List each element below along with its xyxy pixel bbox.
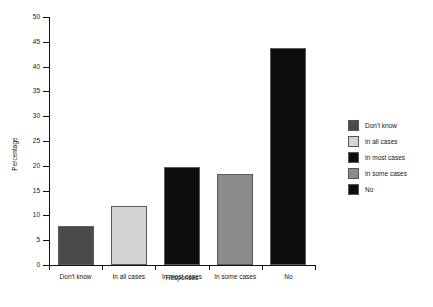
bar-chart: Percentage 05101520253035404550 Don't kn… [0,0,433,307]
x-tick-mark [49,265,50,270]
legend-swatch-icon [348,152,359,163]
y-tick-mark [43,166,49,167]
x-tick-label: In some cases [214,273,256,281]
legend-swatch-icon [348,136,359,147]
legend-item: Don't know [348,117,407,133]
y-tick-mark [43,215,49,216]
bar [164,167,200,265]
y-axis-title: Percentage [11,137,18,170]
y-tick-mark [43,42,49,43]
x-axis-title: Responses [166,274,199,281]
legend-swatch-icon [348,168,359,179]
x-tick-mark [209,265,210,270]
legend-item: No [348,181,407,197]
legend-item-label: In all cases [365,138,398,145]
y-tick-label: 20 [33,163,40,170]
y-tick-mark [43,91,49,92]
y-tick-mark [43,67,49,68]
bar [217,174,253,265]
legend-item-label: In some cases [365,170,407,177]
y-tick-label: 45 [33,39,40,46]
y-axis-line [49,17,50,266]
chart-legend: Don't knowIn all casesIn most casesIn so… [348,117,407,197]
y-tick-label: 30 [33,113,40,120]
y-tick-mark [43,191,49,192]
legend-item-label: No [365,186,373,193]
x-tick-label: Don't know [60,273,92,281]
x-tick-label: In all cases [113,273,146,281]
x-tick-label: No [284,273,292,281]
legend-item-label: Don't know [365,122,397,129]
legend-swatch-icon [348,184,359,195]
y-tick-label: 35 [33,88,40,95]
y-tick-label: 15 [33,188,40,195]
y-tick-label: 40 [33,64,40,71]
legend-item: In most cases [348,149,407,165]
y-tick-label: 0 [36,262,40,269]
x-tick-mark [262,265,263,270]
x-axis-line [49,265,316,266]
y-tick-mark [43,17,49,18]
bar [58,226,94,265]
legend-swatch-icon [348,120,359,131]
bar [111,206,147,265]
y-tick-label: 5 [36,237,40,244]
y-tick-mark [43,240,49,241]
legend-item: In all cases [348,133,407,149]
x-tick-mark [155,265,156,270]
legend-item: In some cases [348,165,407,181]
y-tick-mark [43,116,49,117]
y-tick-label: 50 [33,14,40,21]
bar [270,48,306,265]
y-tick-label: 25 [33,138,40,145]
x-tick-mark [102,265,103,270]
plot-area: 05101520253035404550 Don't knowIn all ca… [49,17,315,265]
y-tick-mark [43,141,49,142]
legend-item-label: In most cases [365,154,405,161]
y-tick-label: 10 [33,212,40,219]
x-tick-mark [315,265,316,270]
